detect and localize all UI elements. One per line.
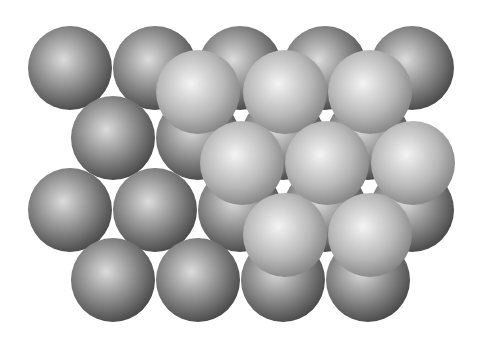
top-sphere (243, 50, 327, 134)
top-sphere (371, 121, 455, 205)
top-sphere (328, 50, 412, 134)
top-sphere (285, 121, 369, 205)
bottom-sphere (28, 26, 112, 110)
bottom-sphere (113, 168, 197, 252)
top-sphere (156, 50, 240, 134)
top-sphere (328, 193, 412, 277)
diagram-canvas (0, 0, 478, 342)
bottom-sphere (156, 238, 240, 322)
bottom-sphere (28, 168, 112, 252)
bottom-sphere (71, 238, 155, 322)
sphere-packing-diagram (0, 0, 478, 342)
top-sphere (243, 193, 327, 277)
top-sphere (200, 121, 284, 205)
bottom-sphere (71, 96, 155, 180)
